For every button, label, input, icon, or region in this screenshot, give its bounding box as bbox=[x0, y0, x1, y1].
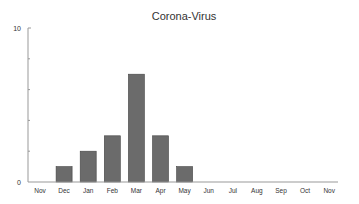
x-tick-label: Feb bbox=[107, 187, 119, 194]
x-tick-label: Jan bbox=[83, 187, 94, 194]
x-tick-label: Nov bbox=[34, 187, 46, 194]
bar bbox=[104, 136, 120, 182]
bars bbox=[56, 74, 193, 182]
x-tick-label: Jun bbox=[203, 187, 214, 194]
y-axis: 010 bbox=[13, 25, 31, 186]
x-tick-label: Sep bbox=[275, 187, 287, 195]
x-axis: NovDecJanFebMarAprMayJunJulAugSepOctNov bbox=[28, 182, 338, 195]
chart-title: Corona-Virus bbox=[152, 10, 217, 22]
bar bbox=[153, 136, 169, 182]
x-tick-label: Dec bbox=[58, 187, 70, 194]
bar bbox=[56, 167, 72, 182]
bar bbox=[128, 74, 144, 182]
x-tick-label: Jul bbox=[229, 187, 238, 194]
x-tick-label: Mar bbox=[131, 187, 143, 194]
y-tick-label: 0 bbox=[17, 179, 21, 186]
bar bbox=[177, 167, 193, 182]
x-tick-label: Apr bbox=[155, 187, 166, 195]
x-tick-label: Oct bbox=[300, 187, 310, 194]
y-tick-label: 10 bbox=[13, 25, 21, 32]
x-tick-label: Aug bbox=[251, 187, 263, 195]
x-tick-label: Nov bbox=[323, 187, 335, 194]
bar bbox=[80, 151, 96, 182]
x-tick-label: May bbox=[178, 187, 191, 195]
bar-chart: Corona-Virus 010 NovDecJanFebMarAprMayJu… bbox=[0, 0, 359, 204]
